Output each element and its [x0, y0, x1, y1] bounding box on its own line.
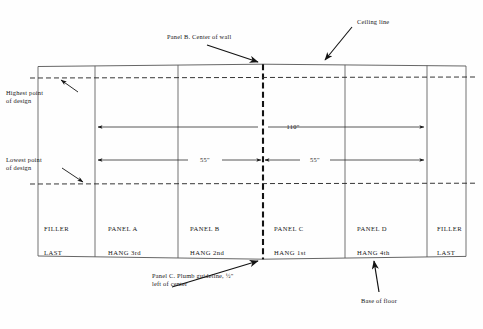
leader-ceiling-line [325, 27, 352, 60]
panel-label-line2: LAST [437, 249, 462, 257]
lowest-point-label: Lowest point of design [6, 156, 42, 172]
panel-label-line2: LAST [44, 249, 69, 257]
floor-line [38, 256, 466, 259]
leader-panel-b-center [207, 45, 258, 62]
panel-label-filler-right: FILLER LAST [437, 209, 462, 273]
dimension-label-110: 110" [286, 123, 299, 131]
panel-label-line1: PANEL C [274, 225, 306, 233]
ceiling-line [38, 64, 466, 66]
panel-label-panel-a: PANEL A HANG 3rd [108, 209, 141, 273]
panel-label-line1: FILLER [44, 225, 69, 233]
panel-label-panel-c: PANEL C HANG 1st [274, 209, 306, 273]
panel-b-center-label: Panel B. Center of wall [167, 33, 231, 41]
base-of-floor-label: Base of floor [361, 297, 397, 305]
panel-label-line2: HANG 3rd [108, 249, 141, 257]
dimension-label-55-right: 55" [310, 156, 320, 164]
dimension-label-55-left: 55" [200, 156, 210, 164]
highest-point-line [30, 77, 476, 78]
panel-label-line1: PANEL A [108, 225, 141, 233]
ceiling-line-label: Ceiling line [357, 18, 389, 26]
leader-lowest-point [62, 168, 83, 182]
lowest-point-line [30, 183, 476, 184]
panel-label-line1: PANEL D [357, 225, 390, 233]
highest-point-label: Highest point of design [6, 89, 43, 105]
diagram-canvas [0, 0, 483, 329]
panel-label-line2: HANG 4th [357, 249, 390, 257]
panel-label-line2: HANG 1st [274, 249, 306, 257]
plumb-guideline-label: Panel C. Plumb guideline, ½" left of cen… [152, 272, 234, 288]
panel-label-line1: FILLER [437, 225, 462, 233]
panel-label-panel-b: PANEL B HANG 2nd [190, 209, 224, 273]
panel-label-line1: PANEL B [190, 225, 224, 233]
panel-label-panel-d: PANEL D HANG 4th [357, 209, 390, 273]
panel-label-filler-left: FILLER LAST [44, 209, 69, 273]
panel-seam-lines [38, 65, 466, 258]
panel-label-line2: HANG 2nd [190, 249, 224, 257]
wall-elevation-diagram: Ceiling line Panel B. Center of wall Hig… [0, 0, 483, 329]
leader-highest-point [61, 80, 78, 92]
